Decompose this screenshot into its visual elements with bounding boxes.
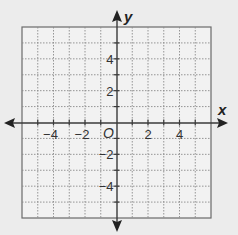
y-tick-label: 2 xyxy=(106,84,113,99)
x-tick-label: −2 xyxy=(75,127,90,142)
x-tick-label: 4 xyxy=(176,127,183,142)
y-tick-label: −2 xyxy=(99,147,114,162)
x-tick-label: −4 xyxy=(43,127,58,142)
origin-label: O xyxy=(103,125,114,141)
coordinate-plane: y x O −4 −2 2 4 4 2 −2 −4 xyxy=(0,0,238,235)
y-tick-label: −4 xyxy=(99,179,114,194)
y-tick-label: 4 xyxy=(106,52,113,67)
x-tick-label: 2 xyxy=(144,127,151,142)
x-axis-label: x xyxy=(217,101,227,118)
y-axis-label: y xyxy=(123,8,133,25)
